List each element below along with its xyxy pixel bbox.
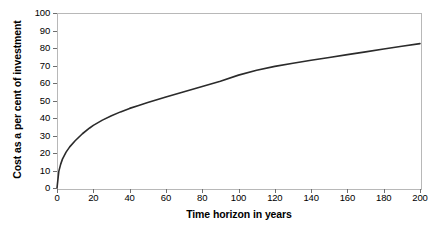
plot-area [57, 13, 420, 188]
y-tick-label: 0 [24, 183, 50, 193]
y-tick-mark [53, 101, 57, 102]
y-tick-label: 70 [24, 61, 50, 71]
x-tick-mark [93, 189, 94, 193]
x-tick-mark [347, 189, 348, 193]
y-tick-mark [53, 136, 57, 137]
x-tick-mark [420, 189, 421, 193]
y-tick-label: 20 [24, 148, 50, 158]
y-tick-mark [53, 171, 57, 172]
x-tick-mark [130, 189, 131, 193]
y-tick-mark [53, 66, 57, 67]
x-tick-label: 160 [340, 193, 355, 203]
y-axis-title: Cost as a per cent of investment [10, 2, 24, 197]
y-tick-mark [53, 83, 57, 84]
x-tick-mark [57, 189, 58, 193]
y-tick-label: 80 [24, 43, 50, 53]
x-tick-mark [275, 189, 276, 193]
data-series-line [57, 44, 420, 188]
y-tick-label: 30 [24, 131, 50, 141]
y-tick-mark [53, 48, 57, 49]
y-tick-label: 100 [24, 8, 50, 18]
chart-figure: Cost as a per cent of investment 0102030… [0, 0, 443, 229]
y-tick-label: 90 [24, 26, 50, 36]
x-tick-label: 140 [303, 193, 318, 203]
x-tick-label: 80 [197, 193, 207, 203]
y-tick-label: 10 [24, 166, 50, 176]
x-tick-mark [384, 189, 385, 193]
x-tick-label: 40 [125, 193, 135, 203]
y-tick-mark [53, 31, 57, 32]
x-tick-mark [166, 189, 167, 193]
x-tick-label: 200 [412, 193, 427, 203]
y-tick-label: 50 [24, 96, 50, 106]
x-axis-title: Time horizon in years [57, 208, 421, 220]
y-tick-mark [53, 153, 57, 154]
y-tick-mark [53, 118, 57, 119]
x-tick-label: 180 [376, 193, 391, 203]
x-tick-label: 100 [231, 193, 246, 203]
x-tick-mark [239, 189, 240, 193]
x-axis-tick-labels: 020406080100120140160180200 [0, 193, 443, 207]
x-tick-label: 120 [267, 193, 282, 203]
y-tick-label: 40 [24, 113, 50, 123]
x-tick-label: 20 [88, 193, 98, 203]
x-tick-label: 0 [54, 193, 59, 203]
y-tick-label: 60 [24, 78, 50, 88]
x-tick-mark [311, 189, 312, 193]
x-tick-label: 60 [161, 193, 171, 203]
x-tick-mark [202, 189, 203, 193]
y-tick-mark [53, 13, 57, 14]
